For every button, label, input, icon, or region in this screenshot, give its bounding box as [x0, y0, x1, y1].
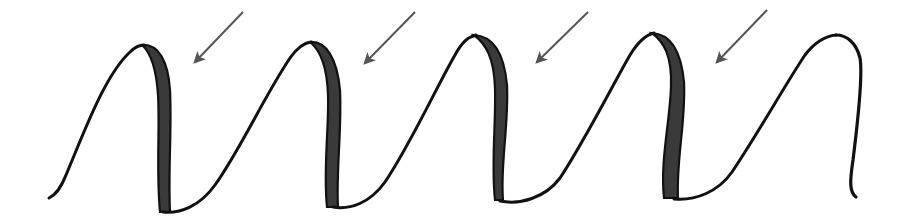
upstroke-4	[500, 33, 654, 202]
arrow-4-icon	[717, 10, 767, 62]
shaded-downstrokes	[142, 33, 684, 212]
upstroke-1	[49, 45, 144, 198]
arrow-1-icon	[195, 12, 243, 62]
upstroke-2	[163, 42, 311, 212]
shaded-downstroke-4	[652, 33, 684, 198]
final-downstroke	[836, 35, 861, 197]
wave-diagram	[0, 0, 906, 221]
shaded-downstroke-1	[142, 45, 171, 212]
calligraphy-wave-figure: Calligraphy wave with shaded downstrokes	[0, 0, 906, 221]
upstroke-3	[333, 35, 476, 208]
shaded-downstroke-2	[310, 42, 340, 207]
upstroke-5	[674, 35, 836, 199]
arrow-2-icon	[365, 12, 415, 63]
shaded-downstroke-3	[474, 35, 507, 200]
arrow-3-icon	[537, 12, 588, 62]
